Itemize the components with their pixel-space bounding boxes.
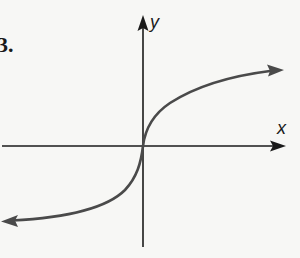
y-axis-label: y xyxy=(150,13,159,31)
x-axis-label: x xyxy=(277,119,286,137)
coordinate-plane xyxy=(0,0,300,258)
graph-figure: 3. y x xyxy=(0,0,300,258)
